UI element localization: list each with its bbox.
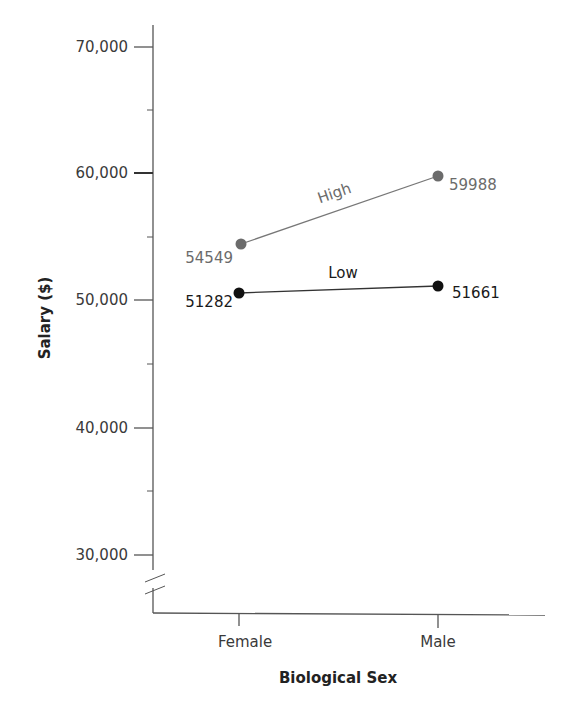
series-label-high: High [315,179,353,207]
value-label-high-female: 54549 [185,249,233,267]
series-line-low [239,286,438,293]
y-tick-label: 40,000 [76,419,129,437]
series-label-low: Low [328,264,358,282]
x-axis-line [153,613,545,615]
x-axis-title: Biological Sex [279,669,398,687]
data-point-high-male [433,171,444,182]
data-point-low-female [234,288,245,299]
y-tick-label: 70,000 [76,38,129,56]
value-label-high-male: 59988 [449,176,497,194]
y-tick-label: 50,000 [76,291,129,309]
x-tick-label-female: Female [218,633,272,651]
y-tick-label: 30,000 [76,546,129,564]
data-point-high-female [236,239,247,250]
y-tick-label: 60,000 [76,164,129,182]
y-axis-title: Salary ($) [36,277,54,360]
value-label-low-male: 51661 [452,284,500,302]
line-chart: 70,000 60,000 50,000 40,000 30,000 Salar… [0,0,572,723]
value-label-low-female: 51282 [185,293,233,311]
x-tick-label-male: Male [420,633,456,651]
data-point-low-male [433,281,444,292]
axis-break-mark [145,586,165,594]
axis-break-mark [145,574,165,582]
